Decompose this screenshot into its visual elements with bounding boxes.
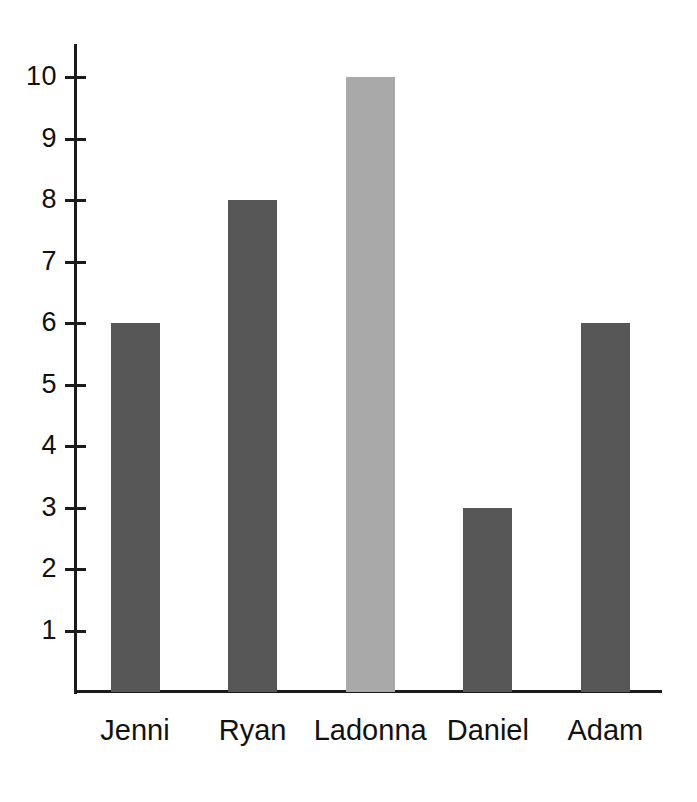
y-axis-tick [65,445,86,448]
y-axis-tick [65,199,86,202]
bar [463,508,512,693]
x-axis-category-label: Jenni [76,716,194,745]
x-axis-category-label: Ladonna [311,716,429,745]
x-axis-category-label: Daniel [429,716,547,745]
x-axis-category-label: Adam [547,716,665,745]
y-axis-tick-label: 1 [4,617,57,644]
y-axis-tick-label: 3 [4,494,57,521]
y-axis-tick-label: 7 [4,248,57,275]
y-axis-tick [65,384,86,387]
y-axis-line [74,44,77,694]
bar [581,323,630,692]
bar [111,323,160,692]
y-axis-tick [65,138,86,141]
y-axis-tick-label: 5 [4,371,57,398]
bar [346,77,395,692]
y-axis-tick [65,568,86,571]
bar [228,200,277,692]
y-axis-tick-label: 4 [4,432,57,459]
y-axis-tick-label: 9 [4,125,57,152]
x-axis-category-label: Ryan [194,716,312,745]
y-axis-tick [65,76,86,79]
bar-chart: 10987654321 JenniRyanLadonnaDanielAdam [0,0,697,802]
y-axis-tick-label: 6 [4,309,57,336]
y-axis-tick-label: 8 [4,186,57,213]
y-axis-tick [65,322,86,325]
y-axis-tick [65,261,86,264]
y-axis-tick [65,630,86,633]
y-axis-tick [65,507,86,510]
y-axis-tick-label: 2 [4,555,57,582]
y-axis-tick-label: 10 [4,63,57,90]
